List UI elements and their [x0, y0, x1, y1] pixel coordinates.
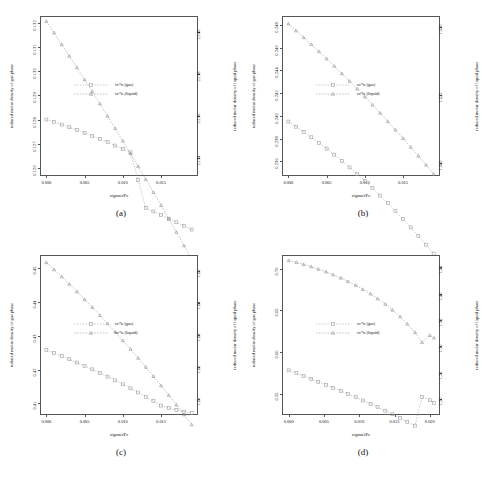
x-ticklabel-b: 0.000 — [283, 180, 293, 185]
legend-b: vc*n (gas)vc*n (liquid) — [316, 80, 380, 98]
legend-label: vc*n (liquid) — [357, 330, 380, 335]
y-ticklabel-left-a: 0.127 — [35, 146, 40, 156]
x-tick-c — [123, 414, 124, 417]
y-ticklabel-right-a: 2.138 — [199, 66, 204, 76]
y-axis-right-title-c: reduced molar density of liquid phase — [232, 300, 237, 369]
y-ticklabel-right-c: 1.62 — [199, 362, 204, 370]
data-point-square — [60, 355, 63, 358]
x-ticklabel-d: 0.000 — [284, 419, 294, 424]
plot-box-b: 0.2360.2380.2400.2420.2440.2460.2481.500… — [282, 16, 440, 176]
data-point-triangle — [369, 292, 372, 295]
legend-item-gas: vc*n (gas) — [74, 80, 138, 89]
x-ticklabel-c: 0.015 — [156, 419, 166, 424]
x-tick-a — [123, 175, 124, 178]
data-point-triangle — [317, 268, 320, 271]
data-point-square — [129, 387, 132, 390]
y-ticklabel-left-b: 0.242 — [277, 96, 282, 106]
x-tick-c — [161, 414, 162, 417]
data-point-square — [428, 399, 431, 402]
data-point-square — [421, 395, 424, 398]
y-ticklabel-right-b: 1.500 — [441, 155, 446, 165]
data-point-triangle — [98, 102, 101, 105]
series-line-square — [46, 350, 191, 413]
legend-label: vc*n (liquid) — [115, 91, 138, 96]
data-point-square — [317, 380, 320, 383]
x-ticklabel-a: 0.005 — [80, 180, 90, 185]
x-tick-a — [161, 175, 162, 178]
y-ticklabel-right-d: 1.25 — [441, 367, 446, 375]
x-tick-d — [289, 414, 290, 417]
data-point-triangle — [354, 284, 357, 287]
y-ticklabel-left-b: 0.246 — [277, 50, 282, 60]
x-ticklabel-b: 0.015 — [398, 180, 408, 185]
data-point-square — [391, 413, 394, 416]
data-point-square — [98, 138, 101, 141]
data-point-square — [287, 120, 290, 123]
y-ticklabel-right-b: 1.525 — [441, 87, 446, 97]
series-line-square — [289, 370, 434, 425]
legend-item-gas: vc*n (gas) — [316, 80, 380, 89]
y-axis-right-title-a: reduced molar density of liquid phase — [232, 61, 237, 130]
series-line-triangle — [46, 262, 191, 424]
data-point-triangle — [346, 280, 349, 283]
x-tick-d — [324, 414, 325, 417]
data-point-triangle — [384, 303, 387, 306]
y-axis-left-title-b: reduced molar density of gas phase — [251, 64, 256, 129]
y-ticklabel-right-d: 1.40 — [441, 288, 446, 296]
x-ticklabel-c: 0.010 — [118, 419, 128, 424]
x-axis-title-a: sigma/rPc — [110, 193, 128, 198]
y-ticklabel-right-d: 1.35 — [441, 315, 446, 323]
y-ticklabel-right-a: 2.136 — [199, 109, 204, 119]
y-ticklabel-left-d: 0.70 — [277, 271, 282, 279]
data-point-triangle — [152, 191, 155, 194]
y-ticklabel-right-a: 2.140 — [199, 24, 204, 34]
y-ticklabel-right-d: 1.30 — [441, 341, 446, 349]
x-ticklabel-b: 0.005 — [322, 180, 332, 185]
x-ticklabel-a: 0.010 — [118, 180, 128, 185]
data-point-square — [414, 424, 417, 427]
x-tick-d — [430, 414, 431, 417]
y-axis-left-title-d: reduced molar density of gas phase — [251, 303, 256, 368]
legend-item-gas: vc*n (gas) — [316, 319, 380, 328]
panel-caption-a: (a) — [0, 208, 242, 218]
x-tick-b — [365, 175, 366, 178]
legend-item-liquid: vc*n (liquid) — [74, 328, 138, 337]
data-point-square — [152, 400, 155, 403]
figure-grid: reduced molar density of gas phase reduc… — [0, 0, 484, 478]
data-point-triangle — [45, 261, 48, 264]
y-axis-right-title-b: reduced molar density of liquid phase — [474, 61, 479, 130]
y-ticklabel-right-b: 1.550 — [441, 19, 446, 29]
panel-caption-b: (b) — [242, 208, 484, 218]
y-axis-right-title-d: reduced molar density of liquid phase — [474, 300, 479, 369]
y-ticklabel-left-a: 0.126 — [35, 170, 40, 180]
legend-item-liquid: vc*n (liquid) — [316, 328, 380, 337]
x-axis-title-b: sigma/rPc — [352, 193, 370, 198]
x-tick-b — [327, 175, 328, 178]
data-point-triangle — [376, 297, 379, 300]
legend-item-gas: vc*n (gas) — [74, 319, 138, 328]
data-point-triangle — [114, 127, 117, 130]
y-ticklabel-right-c: 1.64 — [199, 298, 204, 306]
data-point-square — [183, 224, 186, 227]
x-ticklabel-c: 0.005 — [80, 419, 90, 424]
x-axis-title-c: sigma/rPc — [110, 432, 128, 437]
x-tick-b — [403, 175, 404, 178]
x-tick-a — [46, 175, 47, 178]
legend-item-liquid: vc*n (liquid) — [74, 89, 138, 98]
panel-caption-c: (c) — [0, 447, 242, 457]
y-ticklabel-left-a: 0.132 — [35, 26, 40, 36]
x-ticklabel-c: 0.000 — [41, 419, 51, 424]
y-ticklabel-right-c: 1.65 — [199, 265, 204, 273]
data-point-square — [53, 120, 56, 123]
data-point-square — [433, 401, 436, 404]
data-point-triangle — [53, 31, 56, 34]
legend-key-icon — [316, 320, 350, 328]
y-ticklabel-right-d: 1.20 — [441, 394, 446, 402]
data-point-square — [144, 395, 147, 398]
y-ticklabel-right-a: 2.134 — [199, 151, 204, 161]
data-point-triangle — [287, 22, 290, 25]
data-point-square — [60, 123, 63, 126]
legend-key-icon — [316, 90, 350, 98]
legend-label: vc*n (liquid) — [115, 330, 138, 335]
y-ticklabel-left-c: 0.45 — [35, 271, 40, 279]
